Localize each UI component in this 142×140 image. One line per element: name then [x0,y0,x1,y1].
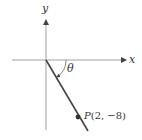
point-name: P [84,110,91,121]
y-axis-label: y [42,2,48,15]
point-p [76,115,81,120]
angle-arc [57,60,66,77]
x-axis-label: x [129,53,135,66]
angle-label: θ [67,62,74,75]
point-label: P(2, −8) [84,110,126,121]
point-coords: (2, −8) [91,110,126,121]
